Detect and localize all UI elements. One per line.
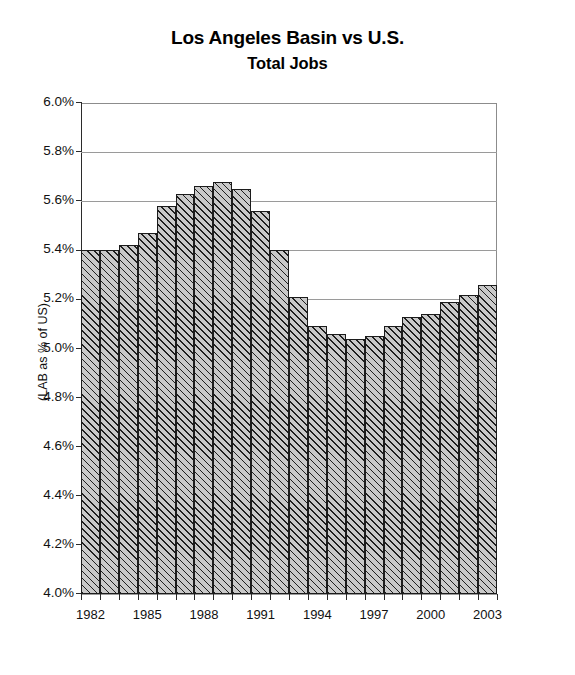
bar (119, 245, 138, 594)
x-tick-label: 1982 (76, 607, 105, 622)
bar (308, 326, 327, 594)
x-tick-mark (497, 594, 498, 600)
y-tick-label: 4.8% (26, 389, 74, 404)
x-tick-mark (478, 594, 479, 600)
y-tick-label: 4.6% (26, 438, 74, 453)
bar (138, 233, 157, 594)
bar (459, 295, 478, 595)
x-tick-mark (81, 594, 82, 600)
x-tick-mark (176, 594, 177, 600)
x-tick-mark (384, 594, 385, 600)
x-tick-label: 1991 (246, 607, 275, 622)
bar (384, 326, 403, 594)
x-tick-mark (327, 594, 328, 600)
bar (100, 250, 119, 594)
x-tick-mark (421, 594, 422, 600)
x-tick-mark (157, 594, 158, 600)
x-tick-label: 2000 (416, 607, 445, 622)
y-tick-label: 4.0% (26, 585, 74, 600)
chart-container: Los Angeles Basin vs U.S. Total Jobs 6.0… (0, 0, 575, 675)
x-tick-mark (100, 594, 101, 600)
y-tick-label: 5.2% (26, 290, 74, 305)
bar (213, 182, 232, 594)
x-tick-mark (346, 594, 347, 600)
x-tick-mark (440, 594, 441, 600)
x-tick-mark (119, 594, 120, 600)
x-tick-mark (194, 594, 195, 600)
bar (402, 317, 421, 594)
x-tick-mark (213, 594, 214, 600)
y-tick-label: 5.0% (26, 340, 74, 355)
chart-title: Los Angeles Basin vs U.S. (0, 26, 575, 50)
bar (251, 211, 270, 594)
y-tick-label: 4.2% (26, 536, 74, 551)
y-axis-title: (LAB as % of US) (36, 252, 50, 452)
x-tick-label: 1985 (133, 607, 162, 622)
bar (194, 186, 213, 594)
x-tick-mark (308, 594, 309, 600)
bar-series (81, 103, 497, 594)
x-tick-label: 1988 (189, 607, 218, 622)
y-tick-label: 5.8% (26, 143, 74, 158)
y-tick-label: 6.0% (26, 94, 74, 109)
y-tick-label: 5.6% (26, 192, 74, 207)
title-block: Los Angeles Basin vs U.S. Total Jobs (0, 26, 575, 74)
x-tick-mark (402, 594, 403, 600)
bar (327, 334, 346, 594)
x-tick-mark (459, 594, 460, 600)
bar (157, 206, 176, 594)
x-tick-label: 1994 (303, 607, 332, 622)
chart-subtitle: Total Jobs (0, 52, 575, 74)
x-tick-label: 1997 (360, 607, 389, 622)
bar (232, 189, 251, 594)
bar (421, 314, 440, 594)
bar (289, 297, 308, 594)
bar (270, 250, 289, 594)
bar (478, 285, 497, 594)
x-tick-mark (138, 594, 139, 600)
x-tick-mark (289, 594, 290, 600)
bar (440, 302, 459, 594)
x-tick-label: 2003 (473, 607, 502, 622)
x-tick-mark (270, 594, 271, 600)
bar (176, 194, 195, 594)
bar (365, 336, 384, 594)
x-tick-mark (365, 594, 366, 600)
bar (346, 339, 365, 594)
x-tick-mark (232, 594, 233, 600)
y-tick-label: 5.4% (26, 241, 74, 256)
x-tick-mark (251, 594, 252, 600)
bar (81, 250, 100, 594)
y-tick-label: 4.4% (26, 487, 74, 502)
